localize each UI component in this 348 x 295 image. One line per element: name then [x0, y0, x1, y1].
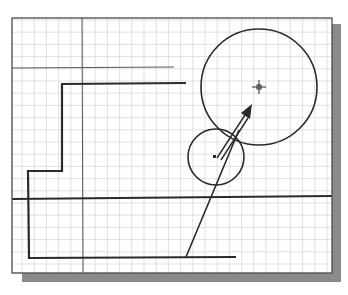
grip-point[interactable]	[213, 155, 216, 158]
drawing-canvas[interactable]	[0, 0, 348, 295]
frame-shadow-right	[332, 24, 341, 282]
frame-shadow-bottom	[22, 273, 341, 282]
